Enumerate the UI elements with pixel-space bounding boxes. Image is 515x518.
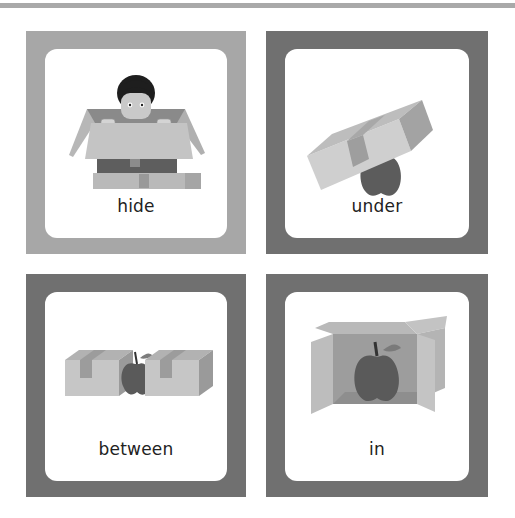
card-face: in <box>285 292 469 481</box>
apple-between-boxes-illustration <box>45 292 227 442</box>
card-label: hide <box>45 196 227 216</box>
card-face: under <box>285 49 469 238</box>
card-face: between <box>45 292 227 481</box>
card-face: hide <box>45 49 227 238</box>
flashcard-in[interactable]: in <box>266 274 488 497</box>
card-label: between <box>45 439 227 459</box>
card-label: under <box>285 196 469 216</box>
apple-in-box-illustration <box>285 292 469 442</box>
flashcard-under[interactable]: under <box>266 31 488 254</box>
flashcard-between[interactable]: between <box>26 274 246 497</box>
boy-hiding-in-box-illustration <box>45 49 227 199</box>
top-divider <box>0 3 515 8</box>
flashcard-hide[interactable]: hide <box>26 31 246 254</box>
apple-under-box-illustration <box>285 49 469 199</box>
card-label: in <box>285 439 469 459</box>
